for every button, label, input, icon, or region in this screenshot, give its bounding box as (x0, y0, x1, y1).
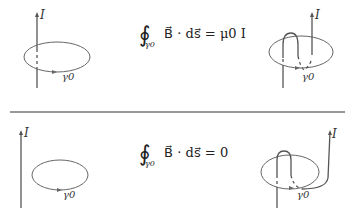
arrow-up-icon (35, 12, 39, 17)
loop-label: γ0 (63, 189, 75, 200)
bottom-left-figure (19, 130, 88, 208)
current-label: I (40, 8, 45, 22)
integral-subscript: γ0 (145, 159, 155, 168)
integral-subscript: γ0 (145, 40, 155, 49)
zero-circulation-equation: ∮γ0 B⃗ · ds⃗ = 0 (139, 137, 228, 162)
arrow-right-icon (295, 66, 300, 70)
current-label: I (315, 8, 320, 22)
current-label: I (24, 126, 29, 140)
arrow-up-icon (19, 130, 23, 135)
equation-body: B⃗ · ds⃗ = μ0 I (164, 26, 246, 41)
ampere-law-equation: ∮γ0 B⃗ · ds⃗ = μ0 I (139, 18, 246, 43)
current-label: I (332, 127, 337, 141)
arrow-right-icon (52, 70, 57, 74)
top-left-figure (24, 12, 90, 88)
loop-label: γ0 (62, 71, 74, 82)
top-right-figure (269, 12, 333, 88)
loop-label: γ0 (302, 71, 314, 82)
arrow-right-icon (57, 188, 62, 192)
loop-label: γ0 (297, 189, 309, 200)
arrow-up-icon (310, 12, 314, 17)
equation-body: B⃗ · ds⃗ = 0 (164, 145, 228, 160)
